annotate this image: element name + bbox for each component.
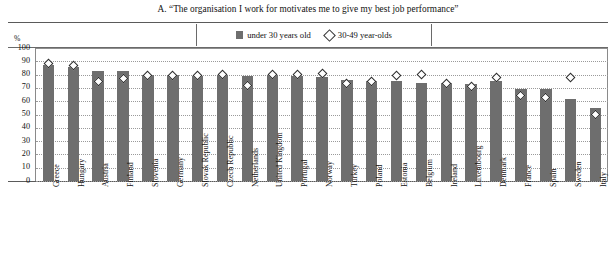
y-tick-label-0: 0 — [0, 177, 30, 185]
category-label-poland: Poland — [375, 164, 384, 187]
category-label-sweden: Sweden — [574, 161, 583, 187]
bar-spain — [540, 89, 552, 181]
y-tick-label-90: 90 — [0, 57, 30, 65]
gridline-90 — [36, 61, 608, 62]
diamond-swatch-icon — [323, 29, 336, 42]
category-label-czech-republic: Czech Republic — [226, 135, 235, 187]
marker-estonia — [392, 71, 402, 81]
y-tick-label-50: 50 — [0, 110, 30, 118]
category-label-slovak-republic: Slovak Republic — [201, 133, 210, 187]
y-tick-label-70: 70 — [0, 83, 30, 91]
y-tick-label-60: 60 — [0, 97, 30, 105]
plot-area — [36, 48, 608, 181]
y-axis-unit-label: % — [14, 34, 20, 43]
title-rule — [8, 22, 608, 23]
legend-label-30-49: 30-49 year-olds — [338, 30, 392, 40]
y-tick-label-20: 20 — [0, 150, 30, 158]
y-tick-label-30: 30 — [0, 137, 30, 145]
category-label-norway: Norway — [325, 161, 334, 187]
y-tick-label-40: 40 — [0, 123, 30, 131]
category-label-united-kingdom: United Kingdom — [275, 132, 284, 187]
category-label-luxembourg: Luxembourg — [474, 145, 483, 187]
category-label-italy: Italy — [599, 172, 608, 187]
category-label-finland: Finland — [126, 162, 135, 187]
figure-title: A. “The organisation I work for motivate… — [0, 4, 616, 14]
bar-swatch-icon — [236, 31, 243, 39]
category-label-estonia: Estonia — [400, 163, 409, 187]
category-label-denmark: Denmark — [499, 157, 508, 187]
y-tick-label-80: 80 — [0, 70, 30, 78]
y-tick-label-10: 10 — [0, 163, 30, 171]
category-label-hungary: Hungary — [77, 159, 86, 187]
legend-item-30-49: 30-49 year-olds — [325, 30, 392, 40]
category-label-netherlands: Netherlands — [251, 148, 260, 187]
category-label-spain: Spain — [549, 169, 558, 187]
category-label-germany: Germany — [176, 157, 185, 187]
category-label-france: France — [524, 165, 533, 187]
y-tick-label-100: 100 — [0, 44, 30, 52]
category-label-slovenia: Slovenia — [151, 159, 160, 187]
category-label-ireland: Ireland — [450, 164, 459, 187]
legend-label-under-30: under 30 years old — [247, 30, 311, 40]
category-label-greece: Greece — [52, 164, 61, 187]
category-label-turkey: Turkey — [350, 164, 359, 187]
category-label-portugal: Portugal — [300, 159, 309, 187]
gridline-100 — [36, 48, 608, 49]
category-label-belgium: Belgium — [425, 159, 434, 187]
legend-item-under-30: under 30 years old — [236, 30, 311, 40]
gridline-0 — [36, 181, 608, 182]
marker-belgium — [417, 70, 427, 80]
chart-legend: under 30 years old 30-49 year-olds — [196, 24, 432, 46]
figure-panel: A. “The organisation I work for motivate… — [0, 0, 616, 276]
category-label-austria: Austria — [101, 163, 110, 187]
